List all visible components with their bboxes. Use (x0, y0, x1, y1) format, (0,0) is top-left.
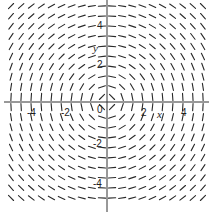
field-segment (191, 155, 195, 161)
field-segment (20, 63, 23, 70)
field-segment (191, 63, 194, 70)
field-segment (170, 24, 175, 29)
field-segment (58, 196, 65, 199)
field-segment (201, 53, 204, 60)
field-segment (181, 44, 185, 50)
field-segment (9, 23, 13, 29)
field-segment (49, 165, 55, 170)
field-segment (78, 177, 85, 179)
field-segment (150, 54, 155, 59)
field-segment (41, 114, 43, 121)
field-segment (98, 56, 105, 57)
field-segment (129, 156, 136, 159)
field-segment (68, 166, 74, 169)
field-segment (119, 65, 126, 68)
field-segment (10, 73, 12, 80)
field-segment (119, 187, 126, 188)
field-segment (99, 94, 104, 99)
field-segment (78, 156, 85, 159)
field-segment (140, 54, 146, 58)
field-segment (109, 86, 116, 88)
field-segment (192, 124, 194, 131)
field-segment (20, 134, 23, 141)
field-segment (201, 144, 204, 151)
field-segment (191, 144, 194, 150)
field-segment (59, 34, 65, 38)
field-segment (180, 196, 186, 200)
field-segment (170, 186, 176, 190)
field-segment (202, 83, 203, 90)
field-segment (89, 65, 96, 68)
field-segment (19, 144, 22, 150)
field-segment (139, 45, 145, 49)
field-segment (200, 195, 205, 200)
field-segment (152, 93, 153, 100)
field-segment (58, 24, 64, 28)
field-segment (98, 127, 105, 128)
field-segment (29, 34, 34, 39)
field-segment (171, 73, 174, 80)
field-segment (191, 43, 195, 49)
field-segment (29, 185, 34, 190)
field-segment (130, 74, 135, 79)
field-segment (132, 104, 133, 111)
field-segment (180, 24, 185, 29)
field-segment (81, 104, 82, 111)
field-segment (59, 135, 63, 141)
field-segment (191, 33, 195, 39)
field-segment (70, 84, 73, 91)
field-segment (91, 94, 93, 101)
field-segment (119, 167, 126, 169)
field-segment (108, 36, 115, 37)
field-segment (99, 116, 106, 118)
field-segment (108, 167, 115, 168)
field-segment (160, 34, 166, 39)
field-segment (108, 137, 115, 138)
field-segment (69, 135, 74, 140)
field-segment (68, 25, 75, 28)
field-segment (110, 105, 115, 110)
field-segment (50, 124, 53, 131)
field-segment (139, 166, 145, 169)
field-segment (19, 33, 23, 39)
field-segment (192, 73, 194, 80)
field-segment (180, 165, 185, 170)
field-segment (171, 144, 175, 150)
field-segment (58, 176, 64, 180)
field-segment (129, 25, 136, 27)
field-segment (139, 15, 146, 18)
field-segment (139, 5, 146, 7)
field-segment (38, 14, 44, 18)
y-tick-label-neg4: -4 (93, 178, 102, 189)
field-segment (108, 157, 115, 158)
field-segment (149, 196, 156, 199)
field-segment (140, 74, 144, 80)
field-segment (149, 186, 155, 189)
field-segment (80, 84, 84, 90)
field-segment (39, 144, 43, 150)
field-segment (191, 134, 194, 141)
field-segment (70, 74, 74, 80)
field-segment (48, 14, 54, 18)
field-segment (68, 186, 75, 189)
field-segment (119, 46, 126, 48)
field-segment (180, 175, 185, 180)
field-segment (48, 4, 54, 8)
field-segment (129, 35, 136, 38)
field-segment (192, 83, 193, 90)
field-segment (10, 83, 11, 90)
field-segment (60, 74, 64, 80)
field-segment (78, 15, 85, 17)
field-segment (170, 44, 175, 50)
field-segment (28, 4, 34, 8)
field-segment (162, 93, 163, 100)
field-segment (170, 14, 176, 18)
field-segment (119, 16, 126, 17)
field-segment (108, 46, 115, 47)
field-segment (180, 14, 185, 19)
field-segment (68, 197, 75, 199)
field-segment (78, 45, 85, 48)
field-segment (162, 103, 163, 110)
field-segment (119, 26, 126, 27)
field-segment (140, 64, 145, 69)
